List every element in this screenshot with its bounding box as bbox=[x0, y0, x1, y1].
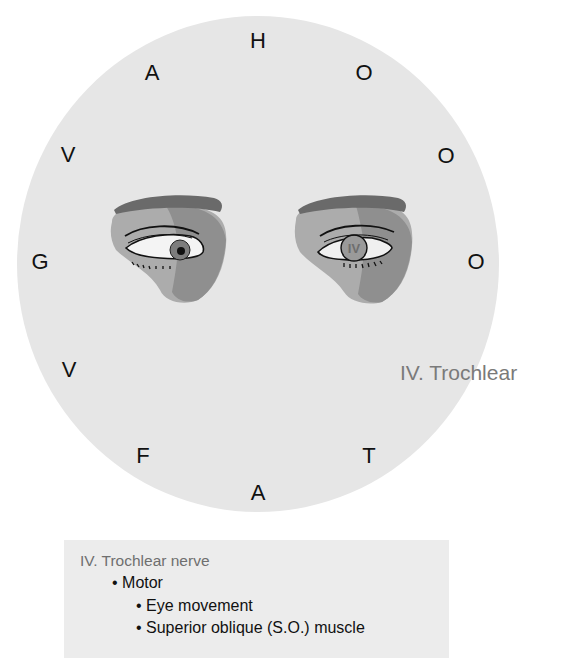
nerve-title: IV. Trochlear nerve bbox=[80, 552, 210, 570]
left-eye-trochlear: IV bbox=[295, 195, 413, 303]
right-eye-normal bbox=[111, 195, 226, 302]
nerve-info-box: IV. Trochlear nerve • Motor • Eye moveme… bbox=[64, 540, 449, 658]
trochlear-label: IV. Trochlear bbox=[400, 362, 517, 383]
nerve-detail-item: • Superior oblique (S.O.) muscle bbox=[136, 619, 365, 637]
nerve-detail-item: • Eye movement bbox=[136, 597, 253, 615]
eye-badge-iv: IV bbox=[348, 241, 361, 256]
nerve-function-item: • Motor bbox=[112, 574, 163, 592]
